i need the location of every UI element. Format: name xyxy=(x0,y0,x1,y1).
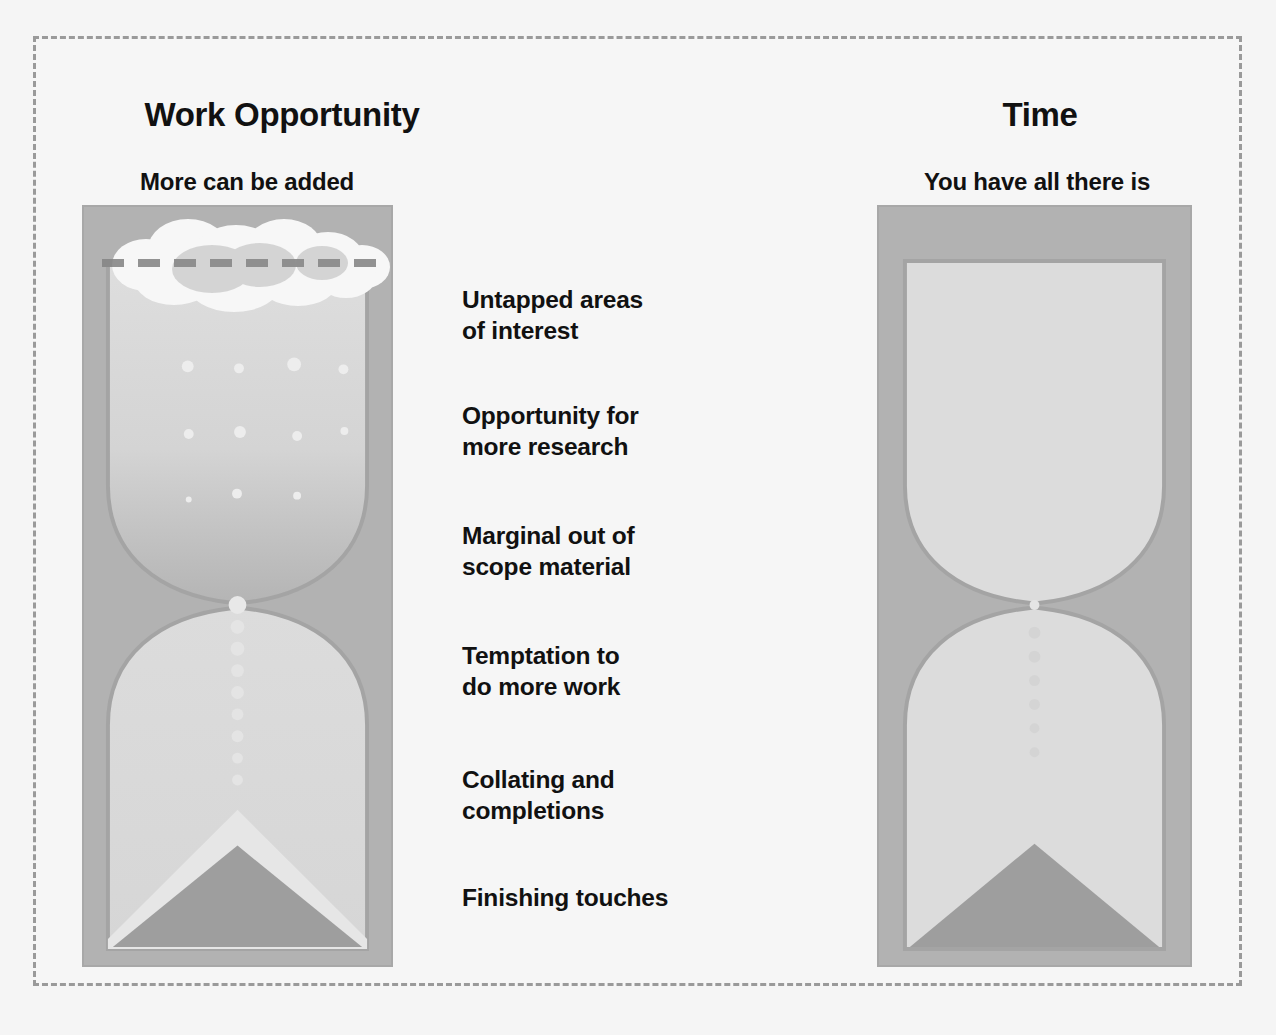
caption-item: Temptation to do more work xyxy=(462,640,620,702)
caption-item: Finishing touches xyxy=(462,882,668,913)
column-subtitle-time: You have all there is xyxy=(872,168,1202,196)
hourglass-neck xyxy=(1030,600,1040,610)
slide-canvas: Work Opportunity Time More can be added … xyxy=(0,0,1276,1035)
caption-item: Opportunity for more research xyxy=(462,400,639,462)
hourglass-left-glass xyxy=(104,257,371,953)
hourglass-icon xyxy=(104,257,371,953)
hourglass-time xyxy=(877,205,1192,967)
column-subtitle-work-opportunity: More can be added xyxy=(82,168,412,196)
caption-item: Untapped areas of interest xyxy=(462,284,643,346)
column-title-work-opportunity: Work Opportunity xyxy=(102,96,462,134)
upper-bulb-shape xyxy=(905,261,1164,604)
caption-item: Collating and completions xyxy=(462,764,615,826)
hourglass-right-glass xyxy=(901,257,1168,953)
column-title-time: Time xyxy=(880,96,1200,134)
hourglass-neck xyxy=(229,596,247,614)
caption-item: Marginal out of scope material xyxy=(462,520,635,582)
hourglass-work-opportunity xyxy=(82,205,393,967)
hourglass-icon xyxy=(901,257,1168,953)
